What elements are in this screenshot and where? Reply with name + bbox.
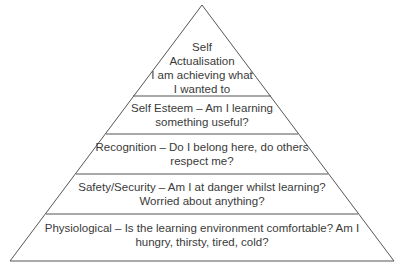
level-text: something useful?: [102, 115, 302, 129]
level-recognition: Recognition – Do I belong here, do other…: [72, 140, 332, 168]
level-text: hungry, thirsty, tired, cold?: [12, 235, 392, 249]
level-text: Recognition – Do I belong here, do other…: [72, 140, 332, 154]
level-text: Safety/Security – Am I at danger whilst …: [42, 180, 362, 194]
level-physiological: Physiological – Is the learning environm…: [12, 221, 392, 249]
level-text: I am achieving what: [132, 68, 272, 82]
level-text: Actualisation: [132, 54, 272, 68]
level-text: Physiological – Is the learning environm…: [12, 221, 392, 235]
level-self-actualisation: Self Actualisation I am achieving what I…: [132, 40, 272, 96]
level-safety-security: Safety/Security – Am I at danger whilst …: [42, 180, 362, 208]
level-text: Self: [132, 40, 272, 54]
level-self-esteem: Self Esteem – Am I learning something us…: [102, 101, 302, 129]
level-text: I wanted to: [132, 82, 272, 96]
level-text: respect me?: [72, 154, 332, 168]
level-text: Self Esteem – Am I learning: [102, 101, 302, 115]
level-text: Worried about anything?: [42, 194, 362, 208]
